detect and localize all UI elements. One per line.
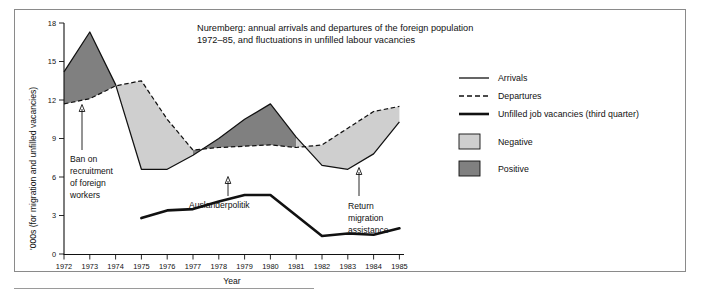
- chart-title-line-2: 1972–85, and fluctuations in unfilled la…: [197, 35, 416, 45]
- band-negative-a: [116, 81, 193, 170]
- annotation-return-line-1: Return: [348, 201, 374, 211]
- figure-container: 0 3 6 9 12 15 18 '000s (for migration an…: [0, 0, 704, 304]
- y-tick-label-15: 15: [48, 57, 56, 66]
- annotation-return-line-2: migration: [348, 213, 384, 223]
- x-tick-label-1972: 1972: [56, 262, 72, 271]
- y-axis-title: '000s (for migration and unfilled vacanc…: [28, 87, 38, 250]
- annotation-auslanderpolitik: Auslanderpolitik: [189, 177, 250, 211]
- annotation-ban-line-4: workers: [69, 190, 100, 200]
- chart-title: Nuremberg: annual arrivals and departure…: [197, 23, 473, 45]
- y-axis-ticks: [59, 23, 64, 254]
- chart-legend: Arrivals Departures Unfilled job vacanci…: [459, 73, 639, 176]
- legend-swatch-positive: [459, 161, 480, 176]
- x-tick-label-1979: 1979: [236, 262, 252, 271]
- x-tick-label-1982: 1982: [314, 262, 330, 271]
- band-group: [64, 32, 399, 169]
- y-tick-label-9: 9: [52, 134, 56, 143]
- annotation-ban-line-2: recruitment: [70, 166, 114, 176]
- x-tick-label-1984: 1984: [365, 262, 381, 271]
- x-axis: 1972 1973 1974 1975 1976 1977 1978 1979 …: [56, 255, 408, 287]
- y-tick-label-12: 12: [48, 96, 56, 105]
- y-tick-label-3: 3: [52, 211, 56, 220]
- legend-swatch-negative: [459, 134, 480, 149]
- x-tick-label-1985: 1985: [391, 262, 407, 271]
- legend-label-negative: Negative: [498, 137, 533, 147]
- y-tick-label-18: 18: [48, 19, 56, 28]
- legend-label-unfilled-job-vacancies: Unfilled job vacancies (third quarter): [498, 109, 639, 119]
- x-axis-title: Year: [223, 276, 241, 286]
- annotation-return-migration: Return migration assistance: [348, 168, 389, 236]
- annotation-return-line-3: assistance: [348, 225, 389, 235]
- annotation-ban-line-1: Ban on: [70, 154, 97, 164]
- chart-canvas: 0 3 6 9 12 15 18 '000s (for migration an…: [0, 0, 704, 304]
- x-tick-label-1973: 1973: [82, 262, 98, 271]
- annotation-ban-on-recruitment: Ban on recruitment of foreign workers: [69, 105, 114, 201]
- x-tick-label-1976: 1976: [159, 262, 175, 271]
- legend-label-arrivals: Arrivals: [498, 73, 528, 83]
- legend-label-departures: Departures: [498, 91, 542, 101]
- y-axis: 0 3 6 9 12 15 18 '000s (for migration an…: [28, 19, 64, 259]
- y-tick-label-0: 0: [52, 250, 56, 259]
- y-tick-label-6: 6: [52, 173, 56, 182]
- x-tick-label-1980: 1980: [262, 262, 278, 271]
- x-tick-label-1981: 1981: [288, 262, 304, 271]
- annotation-auslanderpolitik-label: Auslanderpolitik: [189, 200, 250, 210]
- x-axis-ticks: [64, 255, 399, 260]
- chart-title-line-1: Nuremberg: annual arrivals and departure…: [197, 23, 473, 33]
- band-negative-b: [296, 106, 399, 169]
- legend-label-positive: Positive: [498, 164, 529, 174]
- x-tick-label-1974: 1974: [107, 262, 123, 271]
- band-positive-b: [193, 104, 296, 155]
- x-tick-label-1977: 1977: [185, 262, 201, 271]
- x-tick-label-1978: 1978: [211, 262, 227, 271]
- annotation-ban-line-3: of foreign: [70, 178, 106, 188]
- x-tick-label-1983: 1983: [340, 262, 356, 271]
- x-tick-label-1975: 1975: [133, 262, 149, 271]
